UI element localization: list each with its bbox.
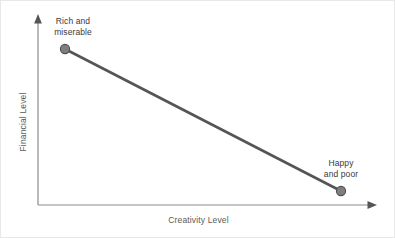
annotation-rich-and-miserable: Rich and miserable [45,16,101,37]
x-axis-title: Creativity Level [1,215,395,225]
data-point-marker-happy-and-poor[interactable] [336,186,345,195]
chart-figure: Rich and miserable Happy and poor Financ… [0,0,395,238]
y-axis-title: Financial Level [18,67,28,177]
data-point-marker-rich-and-miserable[interactable] [60,44,69,53]
y-axis-arrow-icon [34,14,42,24]
data-series-line [65,49,341,191]
x-axis-arrow-icon [368,201,378,209]
annotation-happy-and-poor: Happy and poor [311,158,371,179]
